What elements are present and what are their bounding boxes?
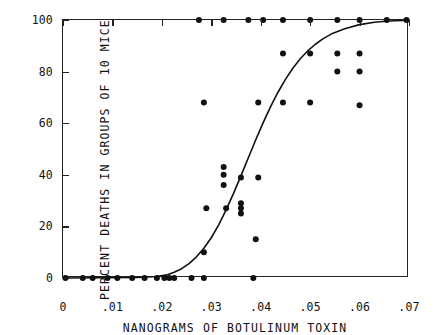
y-tick	[63, 72, 69, 73]
data-point	[221, 182, 227, 188]
data-point	[334, 17, 340, 23]
x-tick	[211, 20, 212, 26]
x-tick	[162, 20, 163, 26]
data-point	[280, 51, 286, 57]
x-tick-label: .01	[102, 300, 123, 314]
x-tick-label: 0	[59, 300, 66, 314]
data-point	[142, 275, 148, 281]
x-tick-label: .05	[299, 300, 320, 314]
data-point	[201, 249, 207, 255]
data-point	[255, 100, 261, 106]
x-tick-label: .04	[250, 300, 271, 314]
data-point	[307, 100, 313, 106]
data-point	[255, 174, 261, 180]
x-tick-label: .02	[151, 300, 172, 314]
data-point	[171, 275, 177, 281]
data-point	[196, 17, 202, 23]
data-point	[245, 17, 251, 23]
data-point	[334, 69, 340, 75]
data-point	[114, 275, 120, 281]
data-point	[129, 275, 135, 281]
y-tick	[63, 226, 69, 227]
x-tick	[112, 20, 113, 26]
data-point	[189, 275, 195, 281]
y-tick-label: 60	[39, 116, 53, 130]
plot-graphics	[63, 20, 409, 278]
data-point	[250, 275, 256, 281]
data-point	[221, 17, 227, 23]
y-tick-label: 100	[32, 13, 53, 27]
y-tick	[63, 20, 69, 21]
data-point	[221, 172, 227, 178]
data-point	[203, 205, 209, 211]
x-tick-label: .03	[201, 300, 222, 314]
data-point	[223, 205, 229, 211]
x-tick	[409, 20, 410, 26]
x-tick-label: .06	[349, 300, 370, 314]
data-layer	[63, 20, 407, 276]
data-point	[90, 275, 96, 281]
scatter-series	[62, 17, 409, 281]
data-point	[253, 236, 259, 242]
data-point	[154, 275, 160, 281]
x-tick	[310, 20, 311, 26]
y-tick-label: 20	[39, 219, 53, 233]
x-tick	[261, 20, 262, 26]
x-tick-label: .07	[398, 300, 419, 314]
y-tick-label: 80	[39, 65, 53, 79]
fit-curve	[63, 20, 409, 278]
data-point	[221, 164, 227, 170]
y-tick	[63, 175, 69, 176]
y-tick	[63, 123, 69, 124]
y-tick	[63, 278, 69, 279]
y-axis-title: PERCENT DEATHS IN GROUPS OF 10 MICE	[98, 50, 112, 300]
data-point	[238, 211, 244, 217]
plot-area: 0.01.02.03.04.05.06.07 020406080100 NANO…	[62, 19, 408, 277]
data-point	[307, 51, 313, 57]
data-point	[201, 100, 207, 106]
data-point	[384, 17, 390, 23]
y-tick-label: 0	[46, 271, 53, 285]
x-tick	[360, 20, 361, 26]
data-point	[280, 100, 286, 106]
data-point	[238, 205, 244, 211]
data-point	[357, 102, 363, 108]
data-point	[238, 174, 244, 180]
data-point	[280, 17, 286, 23]
data-point	[201, 275, 207, 281]
y-tick-label: 40	[39, 168, 53, 182]
data-point	[80, 275, 86, 281]
data-point	[334, 51, 340, 57]
data-point	[357, 51, 363, 57]
x-axis-title: NANOGRAMS OF BOTULINUM TOXIN	[63, 321, 407, 335]
data-point	[238, 200, 244, 206]
data-point	[357, 69, 363, 75]
